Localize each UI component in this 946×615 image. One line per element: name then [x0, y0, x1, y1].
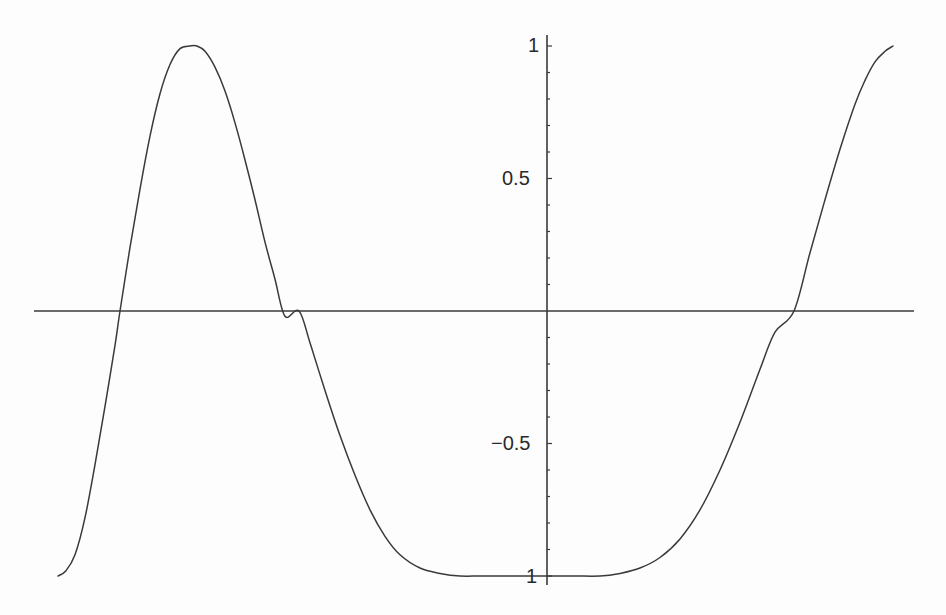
chart: 1 0.5 −0.5 1: [0, 0, 946, 615]
y-tick-label-1: 1: [528, 35, 539, 55]
y-tick-label-neg-1: 1: [526, 566, 537, 586]
y-tick-label-neg-0.5: −0.5: [491, 433, 530, 453]
plot-area: [0, 0, 946, 615]
y-tick-label-0.5: 0.5: [502, 168, 530, 188]
